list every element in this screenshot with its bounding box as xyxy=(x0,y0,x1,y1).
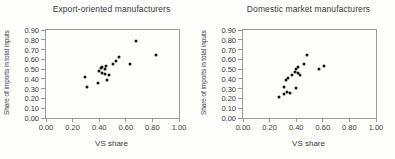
y-tick-mark xyxy=(41,30,45,31)
x-tick-label: 0.40 xyxy=(92,123,107,132)
y-tick-label: 0.90 xyxy=(221,26,236,35)
chart-title-domestic: Domestic market manufacturers xyxy=(242,4,375,14)
x-tick-mark xyxy=(322,118,323,122)
x-tick-mark xyxy=(269,118,270,122)
y-tick-mark xyxy=(238,118,242,119)
y-tick-label: 0.60 xyxy=(221,55,236,64)
data-point xyxy=(299,73,302,76)
y-tick-mark xyxy=(238,39,242,40)
data-point xyxy=(135,39,138,42)
x-tick-mark xyxy=(99,118,100,122)
y-axis-title-domestic: Share of imports in total inputs xyxy=(200,25,207,121)
y-tick-mark xyxy=(41,108,45,109)
y-tick-label: 0.50 xyxy=(24,65,39,74)
x-tick-mark xyxy=(376,118,377,122)
y-tick-mark xyxy=(41,59,45,60)
data-point xyxy=(291,73,294,76)
y-tick-mark xyxy=(238,88,242,89)
data-point xyxy=(96,81,99,84)
data-point xyxy=(128,63,131,66)
data-point xyxy=(107,73,110,76)
chart-title-export: Export-oriented manufacturers xyxy=(45,4,178,14)
data-point xyxy=(287,76,290,79)
data-point xyxy=(317,68,320,71)
data-point xyxy=(103,73,106,76)
y-tick-mark xyxy=(238,98,242,99)
x-tick-label: 1.00 xyxy=(369,123,384,132)
data-point xyxy=(283,85,286,88)
x-tick-label: 0.60 xyxy=(118,123,133,132)
data-point xyxy=(295,86,298,89)
y-tick-mark xyxy=(41,69,45,70)
data-point xyxy=(323,65,326,68)
x-tick-mark xyxy=(152,118,153,122)
y-axis-title-export: Share of imports in total inputs xyxy=(3,25,10,121)
two-panel-scatter-figure: Export-oriented manufacturers Share of i… xyxy=(0,0,395,159)
y-tick-mark xyxy=(41,98,45,99)
y-tick-label: 0.10 xyxy=(221,104,236,113)
plot-area-export: 0.000.100.200.300.400.500.600.700.800.90… xyxy=(45,29,180,119)
x-tick-label: 0.60 xyxy=(315,123,330,132)
y-tick-mark xyxy=(238,69,242,70)
data-point xyxy=(103,68,106,71)
data-point xyxy=(305,54,308,57)
y-tick-label: 0.50 xyxy=(221,65,236,74)
x-tick-label: 0.20 xyxy=(65,123,80,132)
data-point xyxy=(288,91,291,94)
x-tick-mark xyxy=(179,118,180,122)
y-tick-mark xyxy=(238,59,242,60)
y-tick-label: 0.10 xyxy=(24,104,39,113)
x-tick-label: 0.40 xyxy=(289,123,304,132)
data-point xyxy=(155,54,158,57)
y-tick-mark xyxy=(238,30,242,31)
y-tick-mark xyxy=(41,78,45,79)
y-tick-label: 0.20 xyxy=(221,94,236,103)
y-tick-label: 0.00 xyxy=(221,114,236,123)
x-tick-mark xyxy=(125,118,126,122)
y-tick-mark xyxy=(238,49,242,50)
y-tick-mark xyxy=(41,39,45,40)
y-tick-mark xyxy=(41,118,45,119)
x-tick-label: 0.80 xyxy=(342,123,357,132)
data-point xyxy=(86,85,89,88)
data-point xyxy=(277,96,280,99)
x-tick-mark xyxy=(349,118,350,122)
y-tick-label: 0.70 xyxy=(24,45,39,54)
x-tick-mark xyxy=(46,118,47,122)
y-tick-label: 0.00 xyxy=(24,114,39,123)
x-axis-title-domestic: VS share xyxy=(242,139,375,148)
y-tick-mark xyxy=(41,88,45,89)
y-tick-label: 0.30 xyxy=(24,84,39,93)
y-tick-label: 0.90 xyxy=(24,26,39,35)
panel-export-oriented: Export-oriented manufacturers Share of i… xyxy=(0,0,197,159)
data-point xyxy=(296,66,299,69)
y-tick-label: 0.80 xyxy=(221,35,236,44)
data-point xyxy=(303,63,306,66)
x-tick-mark xyxy=(72,118,73,122)
x-tick-label: 0.00 xyxy=(236,123,251,132)
data-point xyxy=(106,78,109,81)
y-tick-label: 0.70 xyxy=(221,45,236,54)
y-tick-label: 0.20 xyxy=(24,94,39,103)
y-tick-mark xyxy=(41,49,45,50)
y-tick-label: 0.30 xyxy=(221,84,236,93)
data-point xyxy=(83,75,86,78)
x-tick-label: 0.00 xyxy=(39,123,54,132)
x-tick-mark xyxy=(296,118,297,122)
panel-domestic-market: Domestic market manufacturers Share of i… xyxy=(197,0,394,159)
y-tick-label: 0.40 xyxy=(221,74,236,83)
y-tick-mark xyxy=(238,78,242,79)
y-tick-mark xyxy=(238,108,242,109)
x-tick-label: 0.20 xyxy=(262,123,277,132)
x-tick-label: 0.80 xyxy=(145,123,160,132)
y-tick-label: 0.60 xyxy=(24,55,39,64)
x-axis-title-export: VS share xyxy=(45,139,178,148)
data-point xyxy=(111,63,114,66)
y-tick-label: 0.40 xyxy=(24,74,39,83)
x-tick-mark xyxy=(243,118,244,122)
x-tick-label: 1.00 xyxy=(172,123,187,132)
data-point xyxy=(104,65,107,68)
data-point xyxy=(115,60,118,63)
y-tick-label: 0.80 xyxy=(24,35,39,44)
data-point xyxy=(118,56,121,59)
